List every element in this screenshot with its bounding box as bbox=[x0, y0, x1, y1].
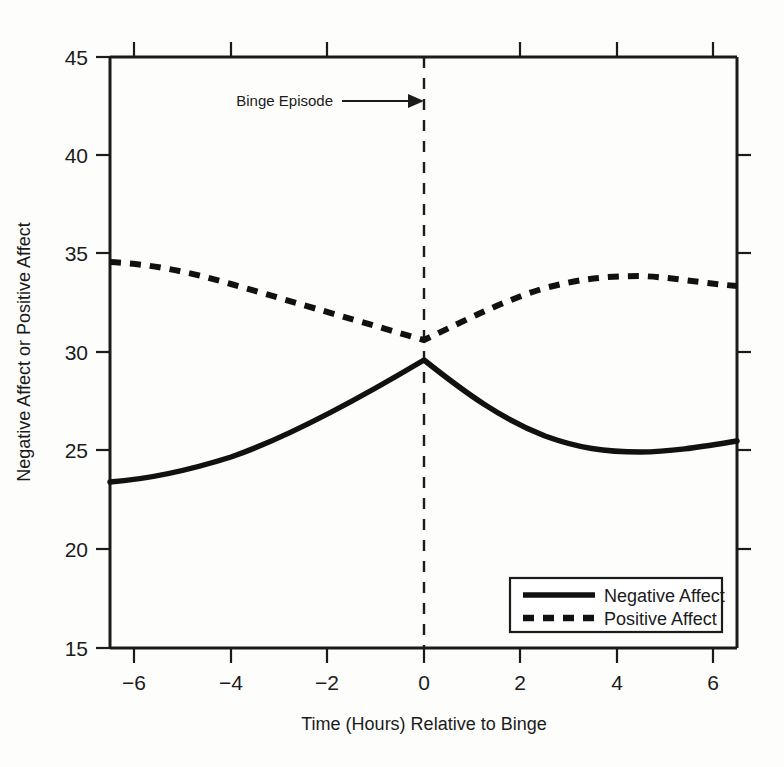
x-tick-label-neg4: −4 bbox=[219, 671, 243, 694]
y-tick-label-35: 35 bbox=[65, 242, 88, 265]
y-axis-title: Negative Affect or Positive Affect bbox=[14, 222, 34, 481]
affect-over-time-line-chart: 45 40 35 30 25 20 15 −6 −4 −2 0 bbox=[0, 0, 784, 767]
binge-episode-annotation-label: Binge Episode bbox=[236, 92, 333, 109]
x-axis-title: Time (Hours) Relative to Binge bbox=[301, 714, 546, 734]
y-tick-label-25: 25 bbox=[65, 439, 88, 462]
x-tick-label-neg6: −6 bbox=[122, 671, 146, 694]
y-tick-label-15: 15 bbox=[65, 637, 88, 660]
y-axis-ticks-right bbox=[737, 155, 751, 549]
y-tick-label-20: 20 bbox=[65, 538, 88, 561]
y-tick-label-30: 30 bbox=[65, 341, 88, 364]
x-tick-label-0: 0 bbox=[418, 671, 430, 694]
x-tick-label-neg2: −2 bbox=[315, 671, 339, 694]
x-tick-label-4: 4 bbox=[611, 671, 623, 694]
y-tick-label-45: 45 bbox=[65, 46, 88, 69]
legend-label-negative-affect: Negative Affect bbox=[604, 586, 725, 606]
binge-episode-arrow-icon bbox=[342, 94, 424, 108]
chart-legend: Negative Affect Positive Affect bbox=[510, 578, 725, 632]
x-tick-label-2: 2 bbox=[514, 671, 526, 694]
y-axis-ticks bbox=[96, 57, 110, 648]
x-tick-label-6: 6 bbox=[707, 671, 719, 694]
x-axis-ticks bbox=[134, 648, 713, 663]
x-axis-ticks-top bbox=[134, 42, 713, 57]
chart-page: 45 40 35 30 25 20 15 −6 −4 −2 0 bbox=[0, 0, 784, 767]
y-tick-label-40: 40 bbox=[65, 144, 88, 167]
legend-label-positive-affect: Positive Affect bbox=[604, 609, 717, 629]
